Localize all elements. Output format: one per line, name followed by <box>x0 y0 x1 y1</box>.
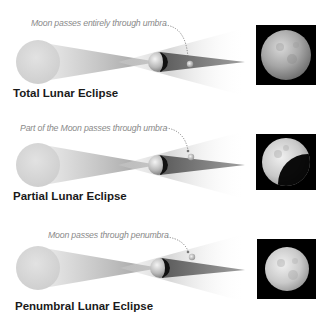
moon-sphere-icon <box>188 154 194 160</box>
panel-total-eclipse: Moon passes entirely through umbra Total… <box>0 0 321 106</box>
earth-sphere-icon <box>148 155 168 175</box>
sun-sphere-icon <box>16 40 60 84</box>
panel-partial-eclipse: Part of the Moon passes through umbra Pa… <box>0 106 321 210</box>
moon-sphere-icon <box>189 254 195 260</box>
caption: Moon passes through penumbra <box>48 229 169 240</box>
pointer-line <box>166 128 188 150</box>
panel-title: Penumbral Lunar Eclipse <box>15 300 153 312</box>
caption: Part of the Moon passes through umbra <box>20 122 167 133</box>
panel-title: Total Lunar Eclipse <box>13 87 118 99</box>
sun-sphere-icon <box>16 143 60 187</box>
sun-sphere-icon <box>16 246 60 290</box>
moon-photo <box>256 25 316 85</box>
earth-sphere-icon <box>148 52 168 72</box>
caption: Moon passes entirely through umbra <box>31 17 167 28</box>
pointer-line <box>167 237 188 251</box>
moon-photo <box>257 239 316 299</box>
moon-sphere-icon <box>187 61 193 67</box>
earth-sphere-icon <box>150 258 170 278</box>
panel-penumbral-eclipse: Moon passes through penumbra Penumbral L… <box>0 210 321 320</box>
panel-title: Partial Lunar Eclipse <box>13 190 127 202</box>
moon-photo <box>256 134 316 190</box>
